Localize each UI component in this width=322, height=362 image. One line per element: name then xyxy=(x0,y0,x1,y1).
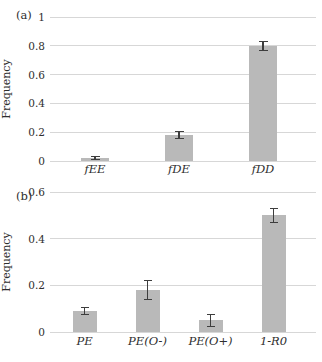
error-bar-cap xyxy=(259,41,268,42)
error-bar-cap xyxy=(144,299,152,300)
y-tick-label: 1 xyxy=(0,10,45,24)
error-bar-cap xyxy=(91,159,100,160)
y-tick-label: 0.6 xyxy=(0,68,45,82)
panel-b: (b) Frequency 00.20.40.6PEPE(O-)PE(O+)1-… xyxy=(0,181,322,362)
category-label: 1-R0 xyxy=(234,334,314,348)
y-tick-label: 0.2 xyxy=(0,125,45,139)
y-tick-label: 0 xyxy=(0,154,45,168)
error-bar-cap xyxy=(175,138,184,139)
y-tick-label: 0.4 xyxy=(0,96,45,110)
error-bar-cap xyxy=(91,156,100,157)
category-label: fEE xyxy=(55,162,135,176)
bar xyxy=(262,215,286,332)
y-tick-label: 0.6 xyxy=(0,185,45,199)
error-bar-cap xyxy=(144,280,152,281)
gridline xyxy=(50,192,316,193)
panel-a-y-axis-label: Frequency xyxy=(0,54,14,124)
panel-a: (a) Frequency 00.20.40.60.81fEEfDEfDD xyxy=(0,0,322,181)
error-bar-cap xyxy=(259,50,268,51)
figure: (a) Frequency 00.20.40.60.81fEEfDEfDD (b… xyxy=(0,0,322,362)
category-label: fDD xyxy=(223,162,303,176)
bar xyxy=(249,46,277,161)
error-bar-cap xyxy=(175,131,184,132)
error-bar-cap xyxy=(81,314,89,315)
error-bar-cap xyxy=(207,314,215,315)
error-bar xyxy=(210,315,211,327)
error-bar-cap xyxy=(81,307,89,308)
error-bar-cap xyxy=(270,208,278,209)
y-tick-label: 0.8 xyxy=(0,39,45,53)
gridline xyxy=(50,17,316,18)
error-bar-cap xyxy=(207,326,215,327)
error-bar xyxy=(147,281,148,300)
y-tick-label: 0 xyxy=(0,325,45,339)
y-tick-label: 0.4 xyxy=(0,232,45,246)
error-bar xyxy=(273,208,274,222)
error-bar-cap xyxy=(270,222,278,223)
y-tick-label: 0.2 xyxy=(0,278,45,292)
category-label: fDE xyxy=(139,162,219,176)
